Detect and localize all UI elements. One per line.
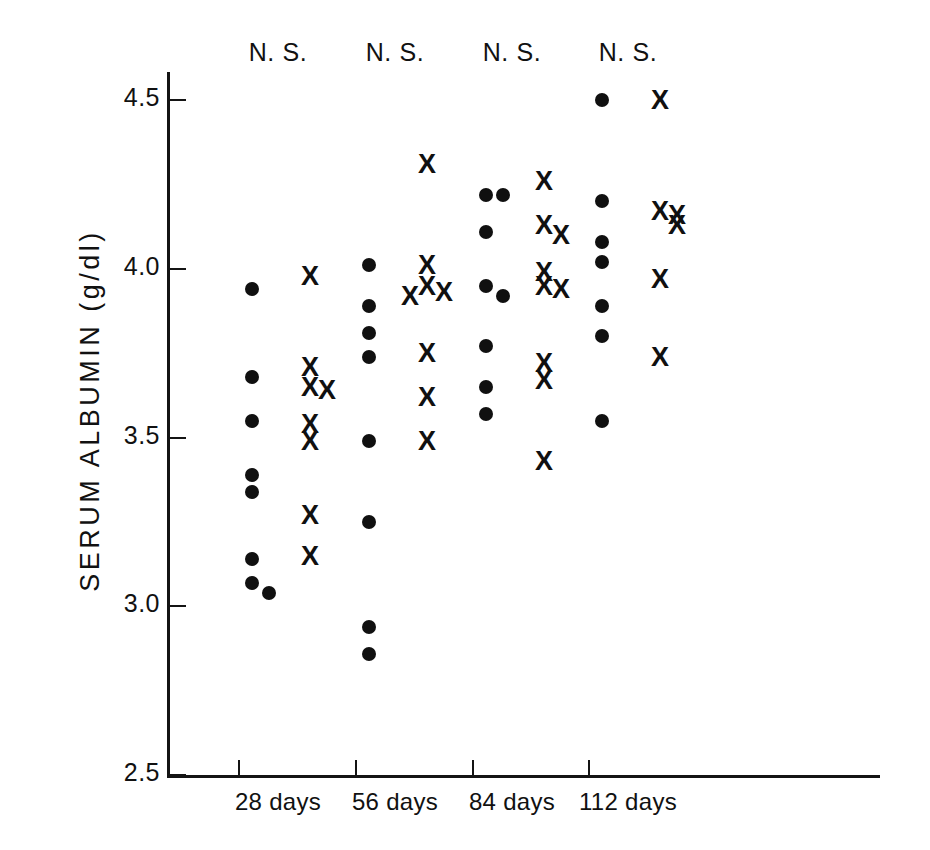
data-point-cross: X: [549, 222, 573, 248]
plot-area: XXXXXXXXXXXXXXXXXXXXXXXXXXXXXXX: [0, 0, 930, 850]
data-point-cross: X: [648, 266, 672, 292]
data-point-dot: [362, 350, 376, 364]
data-point-dot: [595, 414, 609, 428]
chart-figure: 4.54.03.53.02.5 28 days56 days84 days112…: [0, 0, 930, 850]
data-point-dot: [595, 329, 609, 343]
data-point-cross: X: [415, 428, 439, 454]
data-point-cross: X: [415, 151, 439, 177]
data-point-dot: [595, 255, 609, 269]
data-point-dot: [362, 647, 376, 661]
data-point-dot: [362, 326, 376, 340]
data-point-dot: [496, 289, 510, 303]
data-point-dot: [595, 235, 609, 249]
data-point-cross: X: [532, 168, 556, 194]
data-point-cross: X: [298, 428, 322, 454]
data-point-dot: [245, 576, 259, 590]
data-point-cross: X: [298, 263, 322, 289]
data-point-cross: X: [532, 448, 556, 474]
data-point-dot: [362, 299, 376, 313]
data-point-cross: X: [648, 344, 672, 370]
data-point-dot: [362, 258, 376, 272]
data-point-dot: [496, 188, 510, 202]
data-point-dot: [362, 434, 376, 448]
data-point-cross: X: [398, 283, 422, 309]
data-point-dot: [595, 194, 609, 208]
data-point-dot: [479, 225, 493, 239]
data-point-dot: [479, 279, 493, 293]
data-point-dot: [245, 370, 259, 384]
data-point-cross: X: [648, 87, 672, 113]
data-point-dot: [479, 188, 493, 202]
data-point-cross: X: [298, 543, 322, 569]
data-point-cross: X: [532, 367, 556, 393]
data-point-dot: [595, 93, 609, 107]
data-point-dot: [362, 620, 376, 634]
data-point-dot: [362, 515, 376, 529]
data-point-dot: [245, 552, 259, 566]
data-point-cross: X: [549, 276, 573, 302]
data-point-cross: X: [315, 377, 339, 403]
data-point-dot: [479, 339, 493, 353]
data-point-dot: [479, 380, 493, 394]
data-point-cross: X: [665, 212, 689, 238]
data-point-dot: [245, 468, 259, 482]
data-point-dot: [595, 299, 609, 313]
data-point-cross: X: [298, 502, 322, 528]
data-point-dot: [245, 485, 259, 499]
data-point-dot: [479, 407, 493, 421]
data-point-dot: [262, 586, 276, 600]
data-point-dot: [245, 282, 259, 296]
data-point-cross: X: [432, 279, 456, 305]
data-point-dot: [245, 414, 259, 428]
data-point-cross: X: [415, 384, 439, 410]
data-point-cross: X: [415, 340, 439, 366]
